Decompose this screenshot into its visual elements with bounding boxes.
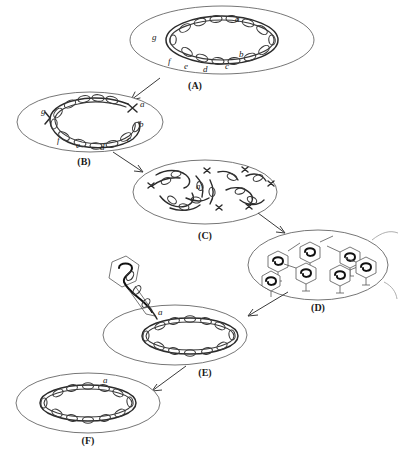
panel-C: a (C) [133, 160, 277, 242]
panel-caption-D: (D) [311, 302, 325, 314]
panel-caption-F: (F) [82, 435, 95, 447]
arrow-A-to-B [131, 78, 160, 100]
locus-label-a-E: a [158, 307, 163, 317]
panel-D: (D) [248, 230, 398, 314]
arrow-E-to-F [152, 366, 186, 391]
figure-canvas: a b c d e f g (A) [0, 0, 401, 455]
locus-label-a-A: a [235, 14, 240, 24]
locus-label-a-F: a [103, 375, 108, 385]
locus-label-g-A: g [152, 32, 157, 42]
panel-F: a (F) [16, 373, 160, 447]
cell-envelope-F [16, 373, 160, 433]
panel-caption-C: (C) [198, 230, 212, 242]
panel-B: a b c d e f g (B) [17, 92, 163, 168]
transduction-diagram: a b c d e f g (A) [0, 0, 401, 455]
arrow-C-to-D [258, 213, 285, 233]
locus-label-d-A: d [203, 64, 208, 74]
panel-caption-B: (B) [77, 156, 90, 168]
locus-label-c-B: c [127, 134, 131, 144]
panel-E: a (E) [103, 256, 247, 379]
lysed-wall-strand-lower [384, 282, 397, 299]
locus-label-a-B: a [140, 99, 145, 109]
locus-label-a-C: a [196, 181, 201, 191]
locus-label-b-A: b [239, 49, 244, 59]
locus-label-g-B: g [41, 106, 46, 116]
locus-label-b-B: b [139, 119, 144, 129]
cell-envelope-E [103, 305, 247, 365]
transducing-phage-E [109, 256, 157, 319]
locus-label-c-A: c [225, 61, 229, 71]
arrow-B-to-C [113, 152, 143, 172]
panel-caption-E: (E) [198, 367, 211, 379]
locus-label-e-B: e [76, 140, 80, 150]
locus-label-d-B: d [100, 142, 105, 152]
locus-label-e-A: e [184, 61, 188, 71]
arrow-D-to-E [248, 292, 288, 316]
lysed-wall-strand-right [372, 232, 398, 240]
panel-caption-A: (A) [188, 80, 202, 92]
panel-A: a b c d e f g (A) [130, 6, 314, 92]
